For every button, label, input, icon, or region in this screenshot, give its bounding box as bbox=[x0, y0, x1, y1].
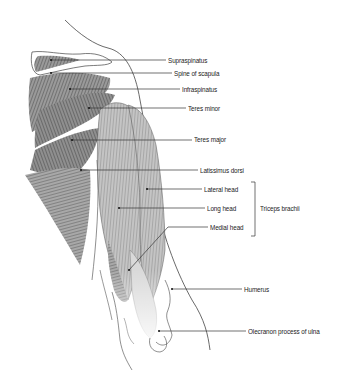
label-humerus: Humerus bbox=[244, 285, 269, 294]
anatomy-figure: Supraspinatus Spine of scapula Infraspin… bbox=[0, 0, 354, 375]
label-long-head: Long head bbox=[207, 204, 236, 213]
label-supraspinatus: Supraspinatus bbox=[168, 56, 207, 65]
label-triceps-brachii: Triceps brachii bbox=[260, 204, 300, 213]
label-latissimus-dorsi: Latissimus dorsi bbox=[200, 166, 244, 175]
label-spine-of-scapula: Spine of scapula bbox=[174, 69, 219, 78]
label-lateral-head: Lateral head bbox=[204, 185, 238, 194]
label-infraspinatus: Infraspinatus bbox=[182, 85, 217, 94]
label-olecranon: Olecranon process of ulna bbox=[248, 327, 320, 336]
label-medial-head: Medial head bbox=[210, 223, 243, 232]
label-teres-major: Teres major bbox=[194, 135, 226, 144]
label-teres-minor: Teres minor bbox=[188, 104, 220, 113]
